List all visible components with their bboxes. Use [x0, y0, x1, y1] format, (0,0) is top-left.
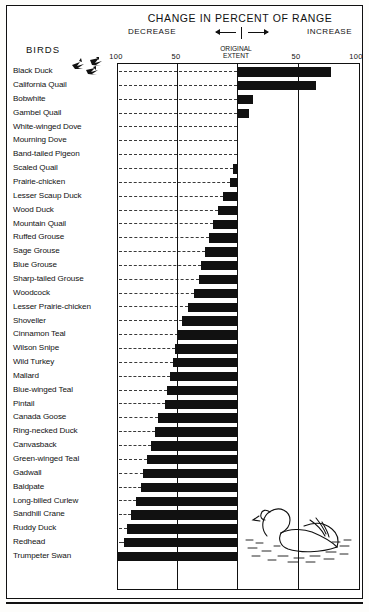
chart-page: CHANGE IN PERCENT OF RANGE DECREASE INCR… [0, 0, 369, 612]
leader-dash [119, 293, 194, 294]
leader-dash [119, 251, 205, 252]
chart-row [118, 190, 359, 204]
bar [151, 441, 237, 450]
chart-row [118, 245, 359, 259]
species-label: Wild Turkey [13, 357, 117, 366]
origin-divider [241, 27, 242, 39]
arrow-left-icon [216, 32, 236, 33]
bar [194, 289, 237, 298]
species-label: California Quail [13, 80, 117, 89]
species-label: Wilson Snipe [13, 343, 117, 352]
chart-row [118, 481, 359, 495]
leader-dash [119, 417, 158, 418]
leader-dash [119, 71, 237, 72]
species-label: Blue Grouse [13, 260, 117, 269]
chart-row [118, 65, 359, 79]
species-label: Redhead [13, 537, 117, 546]
bar [141, 483, 237, 492]
bar [173, 358, 237, 367]
leader-dash [119, 126, 237, 127]
direction-arrows [214, 28, 270, 39]
chart-row [118, 397, 359, 411]
bar [237, 109, 249, 118]
chart-row [118, 342, 359, 356]
species-label: Long-billed Curlew [13, 496, 117, 505]
leader-dash [119, 348, 175, 349]
species-label: Mountain Quail [13, 219, 117, 228]
chart-row [118, 300, 359, 314]
species-label: Cinnamon Teal [13, 329, 117, 338]
gridline-origin [237, 64, 238, 589]
species-label: Blue-winged Teal [13, 385, 117, 394]
gridline-minus50 [177, 64, 178, 589]
chart-row [118, 328, 359, 342]
chart-row [118, 273, 359, 287]
leader-dash [119, 265, 201, 266]
species-label: Trumpeter Swan [13, 551, 117, 560]
chart-row [118, 467, 359, 481]
chart-row [118, 453, 359, 467]
species-label: Black Duck [13, 66, 117, 75]
leader-dash [119, 210, 218, 211]
chart-row [118, 217, 359, 231]
species-label: Baldpate [13, 482, 117, 491]
bar [165, 400, 237, 409]
bar [127, 524, 237, 533]
increase-label: INCREASE [307, 27, 352, 36]
species-label: Canvasback [13, 440, 117, 449]
leader-dash [119, 528, 127, 529]
species-label: Sandhill Crane [13, 509, 117, 518]
species-label: Lesser Scaup Duck [13, 191, 117, 200]
bar [201, 261, 237, 270]
species-label: Bobwhite [13, 94, 117, 103]
bar [209, 233, 237, 242]
birds-heading: BIRDS [26, 44, 60, 55]
chart-row [118, 259, 359, 273]
species-label: Lesser Prairie-chicken [13, 302, 117, 311]
bar [199, 275, 237, 284]
bar [188, 303, 237, 312]
leader-dash [119, 237, 209, 238]
leader-dash [119, 279, 199, 280]
chart-title: CHANGE IN PERCENT OF RANGE [120, 12, 360, 24]
species-label: Mourning Dove [13, 135, 117, 144]
leader-dash [119, 487, 141, 488]
species-label: Pintail [13, 399, 117, 408]
leader-dash [119, 362, 173, 363]
leader-dash [119, 85, 237, 86]
bar [223, 192, 237, 201]
species-label: Sage Grouse [13, 246, 117, 255]
chart-row [118, 231, 359, 245]
tick-label-inc50: 50 [292, 52, 301, 61]
origin-extent-label: ORIGINALEXTENT [220, 45, 252, 59]
bar [178, 330, 237, 339]
species-label: Green-winged Teal [13, 454, 117, 463]
bar [182, 316, 237, 325]
species-label: Woodcock [13, 288, 117, 297]
leader-dash [119, 140, 237, 141]
leader-dash [119, 390, 167, 391]
species-label: Ring-necked Duck [13, 426, 117, 435]
arrow-right-icon [248, 32, 268, 33]
bar [158, 413, 237, 422]
chart-row [118, 425, 359, 439]
leader-dash [119, 445, 151, 446]
chart-row [118, 314, 359, 328]
species-label: Band-tailed Pigeon [13, 149, 117, 158]
bar [136, 497, 237, 506]
species-label: Sharp-tailed Grouse [13, 274, 117, 283]
species-label: Prairie-chicken [13, 177, 117, 186]
chart-row [118, 356, 359, 370]
bar [175, 344, 237, 353]
chart-row [118, 120, 359, 134]
species-label: Canada Goose [13, 412, 117, 421]
chart-row [118, 148, 359, 162]
leader-dash [119, 376, 170, 377]
bar [143, 469, 237, 478]
chart-row [118, 79, 359, 93]
bar [155, 427, 237, 436]
species-label: Gambel Quail [13, 108, 117, 117]
leader-dash [119, 500, 136, 501]
species-label: Shoveller [13, 316, 117, 325]
tick-label-dec50: 50 [172, 52, 181, 61]
